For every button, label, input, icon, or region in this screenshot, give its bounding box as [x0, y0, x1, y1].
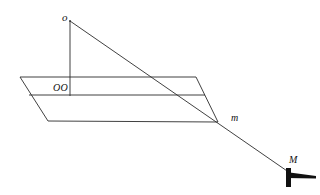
fixed-support-icon [286, 168, 316, 187]
label-mass-m-lower: m [231, 113, 238, 123]
plane-parallelogram [20, 77, 218, 122]
support-ground-bar [286, 172, 316, 179]
label-mass-m-upper: M [289, 155, 297, 165]
label-apex-o: o [62, 12, 68, 23]
geometry-diagram [0, 0, 320, 195]
label-plane-point-oo: OO [53, 83, 68, 93]
figure-canvas: o OO m M [0, 0, 320, 195]
apex-vertex-dot [69, 20, 71, 22]
oblique-ray-line [70, 21, 290, 173]
